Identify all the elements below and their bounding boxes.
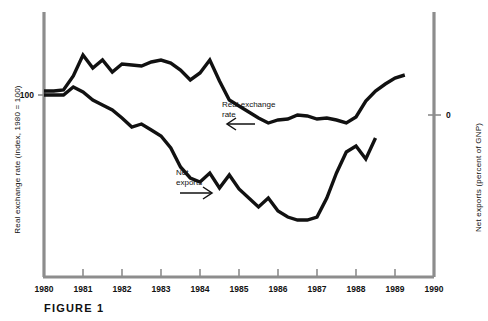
right-axis-title: Net exports (percent of GNP) <box>474 88 483 268</box>
annotation-net-exports: Net exports <box>176 168 202 188</box>
annotation-rer-line2: rate <box>222 110 275 120</box>
figure-caption: FIGURE 1 <box>44 302 104 314</box>
x-tick-label-1980: 1980 <box>24 284 64 294</box>
annotation-netx-line1: Net <box>176 168 202 178</box>
x-tick-label-1981: 1981 <box>63 284 103 294</box>
x-tick-label-1987: 1987 <box>297 284 337 294</box>
annotation-real-exchange-rate: Real exchange rate <box>222 100 275 120</box>
annotation-rer-line1: Real exchange <box>222 100 275 110</box>
figure-root: Real exchange rate (index, 1980 = 100) N… <box>0 0 488 321</box>
x-tick-label-1984: 1984 <box>180 284 220 294</box>
series-group <box>44 55 405 220</box>
x-tick-label-1988: 1988 <box>336 284 376 294</box>
series-line-net-exports <box>44 87 376 220</box>
axis-lines <box>43 12 434 277</box>
left-tick-label-100: 100 <box>4 90 34 100</box>
chart-canvas <box>0 0 488 321</box>
right-arrow-icon <box>180 187 212 199</box>
x-tick-label-1986: 1986 <box>258 284 298 294</box>
x-tick-label-1985: 1985 <box>219 284 259 294</box>
right-tick-label-0: 0 <box>446 110 451 120</box>
x-tick-label-1990: 1990 <box>414 284 454 294</box>
x-tick-label-1982: 1982 <box>102 284 142 294</box>
annotation-netx-line2: exports <box>176 178 202 188</box>
x-tick-label-1983: 1983 <box>141 284 181 294</box>
x-tick-label-1989: 1989 <box>375 284 415 294</box>
